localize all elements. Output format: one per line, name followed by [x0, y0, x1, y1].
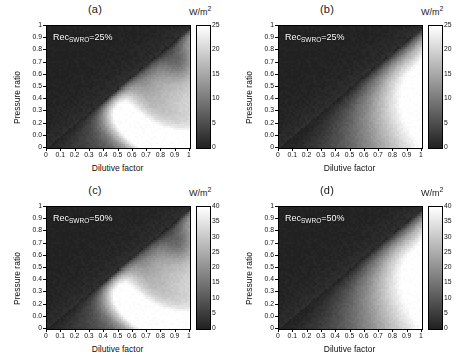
colorbar-tick: 5: [212, 309, 216, 316]
y-tick-mark: [43, 243, 46, 244]
y-axis-tick: 0.6: [20, 70, 42, 77]
y-tick-mark: [275, 123, 278, 124]
panel-d-title: (d): [232, 184, 422, 196]
y-axis-tick: 0.8: [252, 45, 274, 52]
y-tick-mark: [275, 291, 278, 292]
y-axis-tick: 1: [252, 202, 274, 209]
y-axis-tick: 0.3: [20, 287, 42, 294]
x-tick-mark: [175, 329, 176, 332]
colorbar-tick: 25: [444, 21, 452, 28]
x-tick-mark: [160, 329, 161, 332]
x-tick-mark: [292, 329, 293, 332]
y-tick-mark: [275, 37, 278, 38]
x-tick-mark: [278, 329, 279, 332]
colorbar-tick: 20: [212, 263, 220, 270]
y-axis-tick: 0.4: [252, 94, 274, 101]
panel-c-annotation: RecSWRO=50%: [53, 213, 113, 224]
x-tick-mark: [378, 148, 379, 151]
y-axis-tick: 0.7: [252, 58, 274, 65]
colorbar-tick: 0: [444, 143, 448, 150]
x-tick-mark: [75, 148, 76, 151]
y-tick-mark: [43, 37, 46, 38]
y-tick-mark: [43, 86, 46, 87]
x-axis-tick: 1: [180, 151, 198, 158]
x-tick-mark: [350, 329, 351, 332]
colorbar-tick: 30: [444, 233, 452, 240]
x-axis-tick: 1: [180, 332, 198, 339]
colorbar-tick: 5: [444, 119, 448, 126]
y-tick-mark: [43, 206, 46, 207]
colorbar-tick: 15: [444, 278, 452, 285]
x-tick-mark: [146, 148, 147, 151]
x-tick-mark: [407, 329, 408, 332]
colorbar-tick: 10: [444, 294, 452, 301]
y-tick-mark: [43, 267, 46, 268]
x-axis-tick: 1: [412, 332, 430, 339]
y-axis-tick: 0.7: [20, 58, 42, 65]
y-tick-mark: [275, 230, 278, 231]
y-axis-tick: 0.8: [252, 226, 274, 233]
y-axis-tick: 0.0: [252, 312, 274, 319]
colorbar-tick: 5: [444, 309, 448, 316]
panel-c-colorbar: [196, 206, 211, 330]
y-axis-tick: 0.2: [252, 119, 274, 126]
x-tick-mark: [189, 148, 190, 151]
y-tick-mark: [275, 304, 278, 305]
y-axis-tick: 0.9: [252, 33, 274, 40]
y-tick-mark: [275, 255, 278, 256]
x-tick-mark: [364, 148, 365, 151]
panel-d-annotation: RecSWRO=50%: [285, 213, 345, 224]
panel-b-title: (b): [232, 3, 422, 15]
panel-d-plot: RecSWRO=50%: [278, 206, 423, 330]
y-tick-mark: [43, 98, 46, 99]
colorbar-tick: 0: [212, 324, 216, 331]
x-tick-mark: [118, 148, 119, 151]
y-tick-mark: [43, 255, 46, 256]
y-tick-mark: [275, 206, 278, 207]
y-axis-tick: 0.5: [252, 82, 274, 89]
y-axis-tick: 0.4: [252, 275, 274, 282]
colorbar-tick: 25: [212, 21, 220, 28]
colorbar-tick: 25: [212, 248, 220, 255]
panel-b-heatmap: [279, 26, 422, 148]
panel-c-title: (c): [0, 184, 190, 196]
y-axis-tick: 0.3: [20, 106, 42, 113]
x-tick-mark: [307, 329, 308, 332]
colorbar-tick: 35: [444, 217, 452, 224]
x-tick-mark: [118, 329, 119, 332]
y-axis-tick: 0.5: [20, 82, 42, 89]
y-tick-mark: [275, 316, 278, 317]
x-tick-mark: [60, 329, 61, 332]
panel-d: (d) W/m2 RecSWRO=50% Pressure ratio Dilu…: [232, 181, 463, 362]
y-tick-mark: [43, 304, 46, 305]
colorbar-tick: 20: [212, 45, 220, 52]
colorbar-tick: 20: [444, 45, 452, 52]
x-tick-mark: [89, 329, 90, 332]
y-tick-mark: [43, 62, 46, 63]
y-axis-tick: 1: [20, 21, 42, 28]
y-tick-mark: [43, 316, 46, 317]
x-tick-mark: [335, 148, 336, 151]
panel-c: (c) W/m2 RecSWRO=50% Pressure ratio Dilu…: [0, 181, 231, 362]
x-tick-mark: [350, 148, 351, 151]
panel-b: (b) W/m2 RecSWRO=25% Pressure ratio Dilu…: [232, 0, 463, 181]
y-axis-tick: 0.7: [20, 239, 42, 246]
y-tick-mark: [43, 49, 46, 50]
panel-d-unit-label: W/m2: [421, 186, 443, 198]
y-tick-mark: [275, 218, 278, 219]
colorbar-tick: 30: [212, 233, 220, 240]
y-axis-tick: 1: [20, 202, 42, 209]
y-axis-tick: 0.0: [20, 312, 42, 319]
panel-c-xlabel: Dilutive factor: [46, 344, 189, 354]
y-tick-mark: [43, 110, 46, 111]
panel-a-colorbar: [196, 25, 211, 149]
y-tick-mark: [275, 74, 278, 75]
colorbar-tick: 0: [212, 143, 216, 150]
x-tick-mark: [103, 329, 104, 332]
x-tick-mark: [46, 329, 47, 332]
x-tick-mark: [407, 148, 408, 151]
y-axis-tick: 0.4: [20, 275, 42, 282]
x-tick-mark: [307, 148, 308, 151]
y-axis-tick: 0.3: [252, 287, 274, 294]
colorbar-tick: 15: [212, 278, 220, 285]
